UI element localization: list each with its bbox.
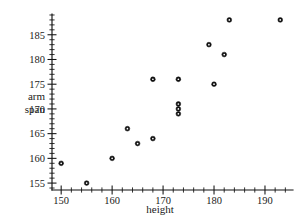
scatter-plot-figure: 155160165170175180185 150160170180190 he… — [0, 0, 298, 219]
plot-canvas: 155160165170175180185 150160170180190 he… — [0, 0, 298, 219]
data-point-center — [178, 103, 180, 105]
data-point — [207, 42, 212, 47]
data-point — [176, 102, 181, 107]
x-tick-label: 180 — [206, 195, 222, 206]
data-point-center — [86, 182, 88, 184]
y-axis-title-line2: span — [25, 103, 46, 115]
y-tick-label: 155 — [29, 178, 45, 189]
x-axis — [52, 186, 293, 195]
data-point — [125, 126, 130, 131]
x-tick-label: 150 — [53, 195, 69, 206]
data-point-center — [127, 128, 129, 130]
data-point — [278, 18, 283, 23]
y-axis-title-line1: arm — [28, 90, 46, 102]
data-point — [150, 77, 155, 82]
data-point — [227, 18, 232, 23]
data-point-center — [208, 44, 210, 46]
data-point-center — [279, 19, 281, 21]
data-point — [84, 181, 89, 186]
data-point-center — [111, 158, 113, 160]
data-point — [110, 156, 115, 161]
data-point-center — [228, 19, 230, 21]
data-point-center — [178, 108, 180, 110]
y-axis — [48, 14, 57, 190]
y-tick-label: 175 — [29, 79, 45, 90]
data-point — [59, 161, 64, 166]
data-point — [176, 77, 181, 82]
data-point — [212, 82, 217, 87]
data-point — [176, 111, 181, 116]
x-axis-title: height — [146, 203, 174, 215]
data-point — [222, 52, 227, 57]
data-point-center — [213, 83, 215, 85]
data-point-center — [223, 54, 225, 56]
y-tick-label: 180 — [29, 54, 45, 65]
data-point — [176, 107, 181, 112]
data-points — [59, 18, 283, 186]
data-point-center — [152, 138, 154, 140]
data-point-center — [178, 113, 180, 115]
data-point-center — [152, 78, 154, 80]
data-point-center — [137, 143, 139, 145]
y-tick-label: 165 — [29, 128, 45, 139]
data-point — [135, 141, 140, 146]
x-tick-label: 190 — [257, 195, 273, 206]
x-tick-label: 160 — [104, 195, 120, 206]
data-point — [150, 136, 155, 141]
data-point-center — [60, 162, 62, 164]
y-tick-label: 160 — [29, 153, 45, 164]
data-point-center — [178, 78, 180, 80]
y-tick-label: 185 — [29, 30, 45, 41]
